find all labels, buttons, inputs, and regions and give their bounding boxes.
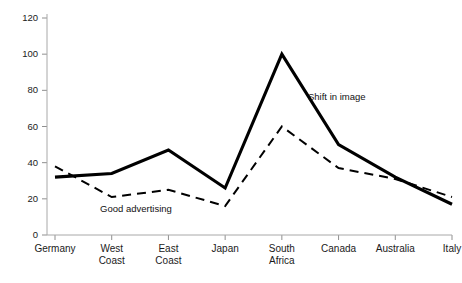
y-axis-tick-label: 60 (27, 121, 38, 132)
series-annotations: Shift in imageGood advertising (100, 91, 366, 214)
x-axis-category-label: Australia (376, 243, 415, 254)
x-axis-labels: GermanyWestCoastEastCoastJapanSouthAfric… (34, 243, 461, 266)
x-axis-category-label: Italy (443, 243, 461, 254)
y-axis-tick-label: 100 (22, 48, 38, 59)
x-axis-ticks (55, 235, 452, 240)
series-line-good-advertising (55, 127, 452, 207)
y-axis-tick-label: 20 (27, 193, 38, 204)
x-axis-category-label: WestCoast (99, 243, 125, 266)
y-axis-tick-label: 0 (33, 229, 38, 240)
y-axis-ticks: 020406080100120 (22, 12, 47, 240)
series-line-shift-in-image (55, 54, 452, 204)
chart-canvas: 020406080100120 GermanyWestCoastEastCoas… (0, 0, 462, 283)
y-axis-tick-label: 120 (22, 12, 38, 23)
x-axis-category-label: EastCoast (155, 243, 181, 266)
y-axis-tick-label: 80 (27, 84, 38, 95)
x-axis-category-label: SouthAfrica (269, 243, 295, 266)
series-annotation-label: Shift in image (308, 91, 366, 102)
x-axis-category-label: Germany (34, 243, 75, 254)
x-axis-category-label: Canada (321, 243, 356, 254)
x-axis-category-label: Japan (212, 243, 239, 254)
line-chart: 020406080100120 GermanyWestCoastEastCoas… (0, 0, 462, 283)
y-axis-tick-label: 40 (27, 157, 38, 168)
series-annotation-label: Good advertising (100, 203, 172, 214)
